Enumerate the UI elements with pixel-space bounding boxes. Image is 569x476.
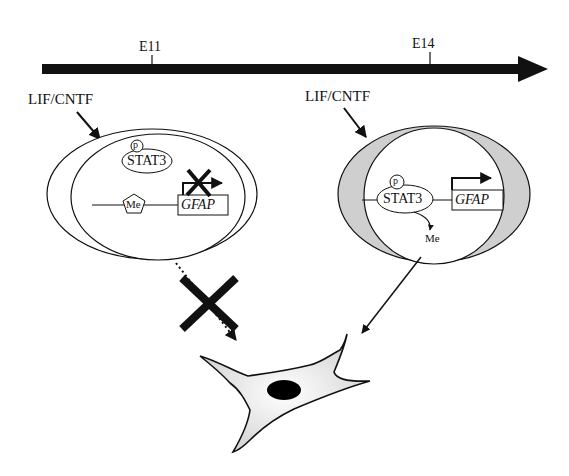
right-differentiation-arrow: [362, 257, 421, 333]
left-stimulus-label: LIF/CNTF: [28, 92, 93, 107]
left-cell: [47, 112, 257, 260]
diagram-svg: [0, 0, 569, 476]
timeline-label-e14: E14: [412, 37, 435, 51]
right-methyl-label: Me: [425, 233, 440, 244]
astrocyte-cell: [200, 334, 370, 452]
left-stat3-label: STAT3: [127, 154, 166, 168]
astrocyte-nucleus: [267, 380, 301, 400]
left-stimulus-arrow: [77, 112, 100, 139]
timeline-label-e11: E11: [139, 40, 161, 54]
left-phospho-label: p: [133, 140, 138, 150]
right-stat3-label: STAT3: [383, 192, 422, 206]
diagram-canvas: E11 E14 LIF/CNTF LIF/CNTF p STAT3 Me GFA…: [0, 0, 569, 476]
timeline-arrow: [42, 52, 548, 82]
right-phospho-label: p: [393, 176, 398, 186]
right-gfap-label: GFAP: [455, 193, 489, 207]
left-methyl-label: Me: [126, 199, 141, 210]
left-gfap-label: GFAP: [181, 198, 215, 212]
left-blocked-path: [176, 263, 236, 340]
right-stimulus-label: LIF/CNTF: [305, 89, 370, 104]
right-stimulus-arrow: [344, 108, 366, 137]
